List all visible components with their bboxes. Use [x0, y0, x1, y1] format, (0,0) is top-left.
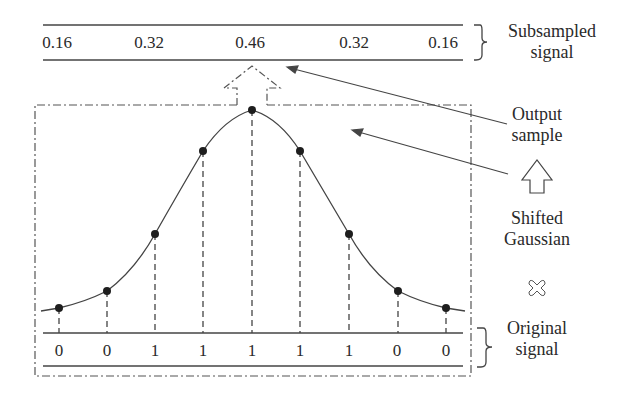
subsampled-label-line1: Subsampled [487, 21, 617, 42]
up-arrow-icon [522, 160, 552, 193]
sample-stems [59, 110, 446, 333]
original-value: 1 [178, 341, 228, 361]
output-sample-label: Output sample [497, 104, 577, 146]
pointer-arrows [287, 66, 508, 174]
original-value: 1 [130, 341, 180, 361]
subsampled-value: 0.32 [124, 33, 174, 53]
subsampled-value: 0.32 [329, 33, 379, 53]
original-value: 0 [421, 341, 471, 361]
original-value: 1 [227, 341, 277, 361]
gaussian-label-line2: Gaussian [497, 229, 577, 250]
gaussian-label-line1: Shifted [497, 208, 577, 229]
original-value: 0 [34, 341, 84, 361]
subsampled-value: 0.16 [418, 33, 468, 53]
original-value: 0 [82, 341, 132, 361]
multiply-cross-icon [529, 280, 545, 295]
original-brace [477, 328, 492, 367]
original-label-line2: signal [497, 339, 577, 360]
original-value: 0 [372, 341, 422, 361]
original-value: 1 [324, 341, 374, 361]
gaussian-curve [41, 110, 465, 311]
subsampled-brace [474, 25, 487, 60]
output-label-line2: sample [497, 125, 577, 146]
output-arrow-dashed [224, 66, 280, 105]
subsampled-signal-label: Subsampled signal [487, 21, 617, 63]
original-value: 1 [275, 341, 325, 361]
output-label-line1: Output [497, 104, 577, 125]
shifted-gaussian-label: Shifted Gaussian [497, 208, 577, 250]
subsampled-label-line2: signal [487, 42, 617, 63]
subsampled-value: 0.16 [32, 33, 82, 53]
original-signal-label: Original signal [497, 318, 577, 360]
original-label-line1: Original [497, 318, 577, 339]
subsampled-value: 0.46 [225, 33, 275, 53]
